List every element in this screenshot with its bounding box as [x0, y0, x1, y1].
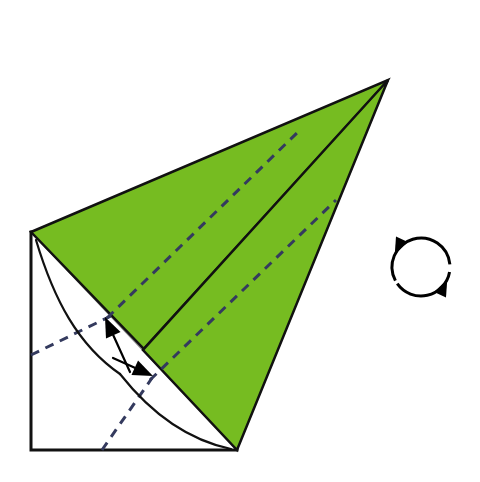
origami-diagram: [0, 0, 480, 482]
origami-diagram-canvas: [0, 0, 480, 482]
